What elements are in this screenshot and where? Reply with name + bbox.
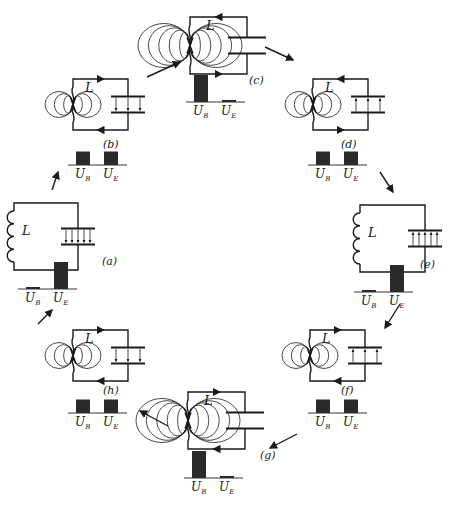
energy-bar-chart: UBUE	[68, 400, 127, 432]
stage-a: L(a)UBUE	[7, 203, 117, 307]
label-U_B: UB	[315, 415, 330, 431]
stage-b: L(b)UBUE	[45, 79, 145, 183]
capacitor-icon	[226, 413, 264, 429]
bar-U_E	[222, 100, 236, 102]
stage-label: (h)	[103, 384, 119, 397]
bar-U_E	[104, 400, 118, 414]
bar-U_B	[316, 400, 330, 414]
label-U_E: UE	[53, 291, 68, 307]
inductor-icon	[7, 211, 14, 262]
stage-label: (b)	[103, 138, 119, 151]
energy-bar-chart: UBUE	[308, 152, 367, 184]
inductor-label: L	[84, 80, 94, 95]
label-U_B: UB	[193, 104, 208, 120]
bar-U_B	[194, 75, 208, 102]
label-U_B: UB	[361, 294, 376, 310]
inductor-label: L	[84, 331, 94, 346]
stage-e: L(e)UBUE	[353, 205, 442, 310]
stage-c: L(c)UBUE	[138, 17, 266, 120]
stage-label: (e)	[420, 258, 435, 271]
stage-h: L(h)UBUE	[45, 330, 145, 431]
bar-U_E	[344, 152, 358, 166]
bar-U_E	[390, 265, 404, 292]
stage-label: (a)	[102, 255, 117, 268]
energy-bar-chart: UBUE	[68, 152, 127, 184]
capacitor-icon	[111, 348, 145, 364]
label-U_B: UB	[75, 415, 90, 431]
capacitor-icon	[348, 348, 382, 364]
capacitor-icon	[351, 97, 385, 113]
bar-U_B	[362, 290, 376, 292]
capacitor-icon	[111, 97, 145, 113]
inductor-label: L	[321, 331, 331, 346]
label-U_E: UE	[343, 415, 358, 431]
inductor-label: L	[367, 225, 377, 240]
stage-f: L(f)UBUE	[282, 330, 382, 431]
energy-bar-chart: UBUE	[308, 400, 367, 432]
energy-bar-chart: UBUE	[18, 262, 77, 307]
bar-U_E	[54, 262, 68, 289]
label-U_E: UE	[389, 294, 404, 310]
label-U_E: UE	[103, 415, 118, 431]
stage-label: (d)	[341, 138, 357, 151]
inductor-label: L	[21, 223, 31, 238]
stage-label: (g)	[260, 449, 276, 462]
inductor-icon	[353, 213, 360, 264]
energy-bar-chart: UBUE	[186, 75, 245, 120]
inductor-icon	[138, 24, 242, 68]
stage-d: L(d)UBUE	[285, 79, 385, 183]
inductor-label: L	[324, 80, 334, 95]
inductor-label: L	[203, 393, 213, 408]
inductor-icon	[136, 399, 240, 443]
label-U_B: UB	[75, 167, 90, 183]
energy-bar-chart: UBUE	[184, 451, 243, 496]
stage-label: (f)	[341, 384, 354, 397]
capacitor-icon	[61, 229, 95, 245]
label-U_B: UB	[315, 167, 330, 183]
bar-U_E	[220, 476, 234, 478]
stage-g: L(g)UBUE	[136, 392, 276, 496]
bar-U_E	[104, 152, 118, 166]
label-U_B: UB	[191, 480, 206, 496]
label-U_E: UE	[103, 167, 118, 183]
capacitor-icon	[408, 231, 442, 247]
label-U_E: UE	[343, 167, 358, 183]
inductor-label: L	[205, 18, 215, 33]
bar-U_E	[344, 400, 358, 414]
label-U_E: UE	[221, 104, 236, 120]
bar-U_B	[76, 152, 90, 166]
bar-U_B	[26, 287, 40, 289]
stage-label: (c)	[249, 74, 264, 87]
capacitor-icon	[228, 38, 266, 54]
bar-U_B	[76, 400, 90, 414]
label-U_E: UE	[219, 480, 234, 496]
bar-U_B	[316, 152, 330, 166]
lc-oscillation-diagram: L(a)UBUEL(b)UBUEL(c)UBUEL(d)UBUEL(e)UBUE…	[0, 0, 451, 509]
label-U_B: UB	[25, 291, 40, 307]
bar-U_B	[192, 451, 206, 478]
